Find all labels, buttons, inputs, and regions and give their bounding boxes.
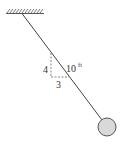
ceiling-support <box>6 9 44 14</box>
rod-length-unit: ft <box>78 61 82 68</box>
horizontal-leg-label: 3 <box>56 79 61 90</box>
vertical-leg-label: 4 <box>43 64 48 75</box>
pendulum-diagram: 4 3 10 ft <box>0 0 121 145</box>
pendulum-bob <box>98 118 116 136</box>
rod-length-label: 10 <box>66 63 76 74</box>
pendulum-rod <box>22 14 102 121</box>
